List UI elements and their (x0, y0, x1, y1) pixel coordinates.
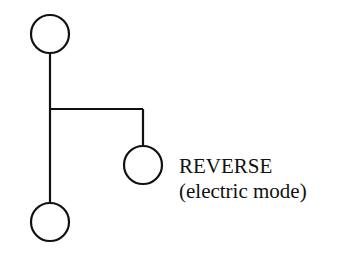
reverse-label: REVERSE (179, 156, 272, 177)
electric-mode-label: (electric mode) (179, 181, 307, 202)
top-position-circle (31, 15, 69, 53)
bottom-position-circle (31, 203, 69, 241)
reverse-position-circle (124, 146, 162, 184)
shift-pattern-diagram (0, 0, 347, 259)
